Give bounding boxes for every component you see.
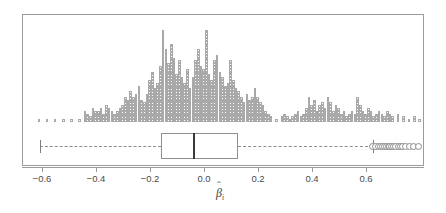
median-line bbox=[193, 133, 195, 159]
boxplot bbox=[23, 15, 425, 167]
axis-tick-label: −0.2 bbox=[141, 173, 160, 184]
subscript-i: i bbox=[222, 193, 224, 202]
x-axis-line bbox=[22, 167, 424, 168]
axis-tick-label: 0.0 bbox=[197, 173, 210, 184]
outlier-point bbox=[415, 143, 422, 150]
axis-tick bbox=[312, 167, 313, 172]
axis-tick bbox=[204, 167, 205, 172]
axis-tick-label: 0.4 bbox=[305, 173, 318, 184]
axis-tick bbox=[42, 167, 43, 172]
axis-tick-label: −0.6 bbox=[33, 173, 52, 184]
whisker-cap-left bbox=[40, 140, 41, 153]
axis-tick-label: 0.6 bbox=[359, 173, 372, 184]
whisker-left bbox=[40, 146, 161, 147]
axis-tick bbox=[366, 167, 367, 172]
whisker-right bbox=[238, 146, 373, 147]
axis-tick bbox=[150, 167, 151, 172]
plot-frame bbox=[22, 14, 424, 166]
axis-tick-label: 0.2 bbox=[251, 173, 264, 184]
box-iqr bbox=[161, 133, 238, 159]
beta-symbol: ˆβ bbox=[216, 186, 222, 201]
x-axis-label: ˆβi bbox=[216, 186, 224, 202]
axis-tick bbox=[258, 167, 259, 172]
axis-tick-label: −0.4 bbox=[87, 173, 106, 184]
hat-accent: ˆ bbox=[217, 179, 221, 191]
axis-tick bbox=[96, 167, 97, 172]
figure-canvas: −0.6−0.4−0.20.00.20.40.6 ˆβi bbox=[0, 0, 446, 213]
